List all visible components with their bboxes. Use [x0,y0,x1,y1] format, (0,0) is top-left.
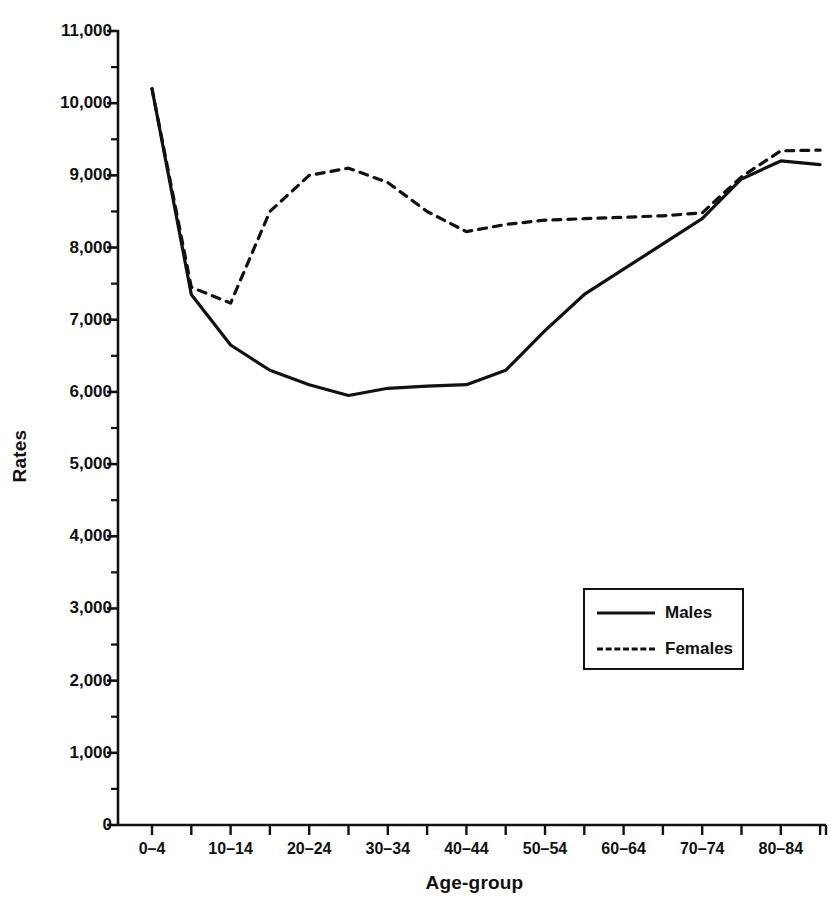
plot-area [0,0,831,911]
chart-container: Rates 01,0002,0003,0004,0005,0006,0007,0… [0,0,831,911]
legend-label-males: Males [665,603,712,623]
series-line-females [152,89,820,303]
x-axis-tick-label: 80–84 [759,840,804,858]
x-axis-tick-label: 0–4 [139,840,166,858]
x-axis-tick-label: 60–64 [601,840,646,858]
x-axis-tick-label: 10–14 [208,840,253,858]
legend-label-females: Females [665,639,733,659]
legend-line-dashed-icon [597,642,655,656]
legend-item-males: Males [585,595,742,631]
legend-line-solid-icon [597,606,655,620]
series-line-males [152,89,820,396]
x-axis-tick-label: 20–24 [287,840,332,858]
x-axis-tick-label: 70–74 [680,840,725,858]
legend-item-females: Females [585,631,742,667]
x-axis-tick-label: 40–44 [444,840,489,858]
x-axis-title: Age-group [118,872,831,894]
x-axis-tick-label: 30–34 [366,840,411,858]
chart-legend: Males Females [583,588,744,670]
x-axis-tick-label: 50–54 [523,840,568,858]
